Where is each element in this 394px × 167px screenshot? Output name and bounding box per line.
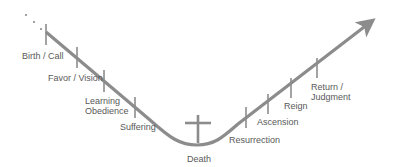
stage-label-line: Birth / Call (22, 51, 64, 61)
stage-label-line: Return / (311, 82, 351, 92)
stage-label-line: Resurrection (229, 135, 280, 145)
stage-label-death: Death (187, 154, 211, 164)
stage-label-line: Favor / Vision (48, 73, 103, 83)
lead-dot (33, 21, 35, 23)
lead-dot (40, 28, 42, 30)
stage-label-line: Death (187, 154, 211, 164)
stage-label-favor-vision: Favor / Vision (48, 73, 103, 83)
stage-label-line: Learning (85, 96, 129, 106)
stage-label-return-judgment: Return /Judgment (311, 82, 351, 102)
stage-label-resurrection: Resurrection (229, 135, 280, 145)
stage-label-line: Ascension (257, 117, 299, 127)
stage-label-birth-call: Birth / Call (22, 51, 64, 61)
stage-label-line: Judgment (311, 92, 351, 102)
stage-label-line: Reign (284, 101, 308, 111)
stage-label-reign: Reign (284, 101, 308, 111)
lead-dot (25, 14, 27, 16)
stage-label-learning-obedience: LearningObedience (85, 96, 129, 116)
cross-icon (185, 115, 211, 143)
leading-dots (25, 14, 42, 30)
stage-label-line: Obedience (85, 106, 129, 116)
stage-label-ascension: Ascension (257, 117, 299, 127)
stage-label-suffering: Suffering (120, 122, 156, 132)
stage-label-line: Suffering (120, 122, 156, 132)
